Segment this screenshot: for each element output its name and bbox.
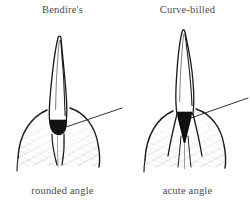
panel-caption-curve-billed: acute angle <box>125 184 250 197</box>
panel-bendires: Bendire's <box>0 0 125 206</box>
bill-illustration-bendires <box>0 24 125 176</box>
panel-title-curve-billed: Curve-billed <box>125 3 250 16</box>
illustration-page: Bendire's <box>0 0 250 206</box>
panel-curve-billed: Curve-billed <box>125 0 250 206</box>
upper-mandible-bendires <box>49 36 67 124</box>
panel-title-bendires: Bendire's <box>0 3 125 16</box>
upper-mandible-curve-billed <box>176 30 194 114</box>
bill-illustration-curve-billed <box>125 24 250 176</box>
panel-caption-bendires: rounded angle <box>0 184 125 197</box>
